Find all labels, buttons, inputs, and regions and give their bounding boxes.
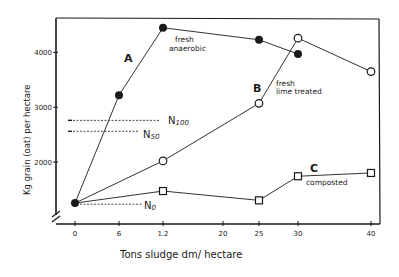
y-axis-title: Kg grain (oat) per hectare (22, 85, 32, 196)
axis-ticks: 061.220253040200030004000 (34, 49, 375, 238)
data-point (255, 36, 263, 44)
x-tick-label: 30 (294, 230, 303, 238)
chart: 061.220253040200030004000 A fresh anaero… (0, 0, 399, 277)
data-point (367, 68, 375, 76)
series-b-note-lime: lime treated (276, 87, 322, 96)
series-a-note-fresh: fresh (175, 35, 194, 44)
y-tick-label: 2000 (34, 159, 52, 167)
x-tick-label: 6 (117, 230, 122, 238)
n0-label: N0 (144, 200, 156, 212)
series-a-label: A (124, 52, 133, 65)
series-a-note-anaerobic: anaerobic (169, 44, 206, 53)
n100-label: N100 (168, 115, 189, 127)
plot-frame (52, 18, 380, 224)
x-tick-label: 25 (255, 230, 264, 238)
x-axis-title: Tons sludge dm/ hectare (119, 249, 242, 260)
data-point (255, 100, 263, 108)
y-tick-label: 3000 (34, 104, 52, 112)
x-tick-label: 40 (367, 230, 376, 238)
data-point (71, 199, 79, 207)
n50-label: N50 (143, 129, 160, 141)
series-b-markers (159, 34, 375, 164)
chart-canvas: 061.220253040200030004000 A fresh anaero… (0, 0, 399, 277)
data-point (294, 50, 302, 58)
data-point (115, 91, 123, 99)
series-a (75, 28, 298, 203)
x-tick-label: 20 (219, 230, 228, 238)
x-tick-label: 1.2 (157, 230, 168, 238)
data-point (160, 188, 167, 195)
data-point (294, 34, 302, 42)
series-c-note: composted (306, 178, 348, 187)
y-tick-label: 4000 (34, 49, 52, 57)
data-point (159, 157, 167, 165)
data-point (256, 197, 263, 204)
series-c-label: C (310, 162, 318, 175)
data-point (295, 173, 302, 180)
data-point (159, 24, 167, 32)
series-b-label: B (253, 82, 261, 95)
data-point (368, 169, 375, 176)
x-tick-label: 0 (73, 230, 77, 238)
